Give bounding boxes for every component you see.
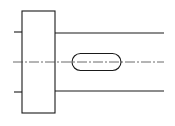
shaft-drawing bbox=[0, 0, 175, 126]
drawing-canvas: shaft-with-flange-and-keyway bbox=[0, 0, 175, 126]
